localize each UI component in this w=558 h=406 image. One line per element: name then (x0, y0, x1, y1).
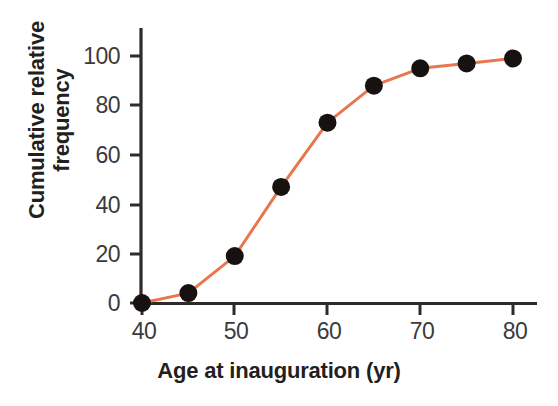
data-point-40 (133, 294, 151, 312)
data-point-50 (226, 247, 244, 265)
y-axis-title-line-1: Cumulative relative (25, 21, 50, 219)
x-tick-label-70: 70 (410, 320, 435, 343)
x-tick-label-80: 80 (503, 320, 528, 343)
data-point-45 (179, 284, 197, 302)
y-axis-title-line-2: frequency (50, 68, 75, 171)
y-axis-ticks (130, 56, 141, 303)
data-point-markers (133, 49, 522, 312)
data-point-60 (319, 114, 337, 132)
data-point-70 (411, 59, 429, 77)
y-axis-title: Cumulative relative frequency (0, 0, 100, 250)
data-point-75 (458, 54, 476, 72)
x-tick-label-40: 40 (132, 320, 157, 343)
data-point-65 (365, 77, 383, 95)
y-tick-label-0: 0 (58, 292, 120, 315)
x-axis-title: Age at inauguration (yr) (0, 358, 558, 384)
x-tick-label-50: 50 (224, 320, 249, 343)
data-point-80 (504, 49, 522, 67)
chart-figure: 0 20 40 60 80 100 40 50 60 70 80 Age at … (0, 0, 558, 406)
x-tick-label-60: 60 (317, 320, 342, 343)
data-point-55 (272, 178, 290, 196)
data-series-line (142, 58, 513, 303)
